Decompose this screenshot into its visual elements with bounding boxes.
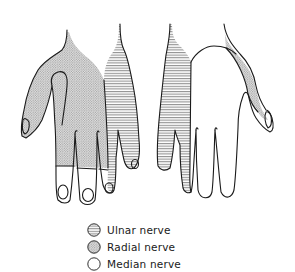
left-radial-region xyxy=(21,32,108,168)
left-nail-index xyxy=(58,185,68,199)
right-ulnar-region xyxy=(157,24,191,193)
right-finger-gap-2 xyxy=(215,128,217,130)
legend-label-radial: Radial nerve xyxy=(107,241,175,253)
legend: Ulnar nerve Radial nerve Median nerve xyxy=(87,221,181,272)
ulnar-swatch-icon xyxy=(87,223,101,237)
median-swatch-icon xyxy=(87,257,101,271)
right-radial-region xyxy=(224,24,268,120)
left-hand xyxy=(21,24,139,205)
left-nail-middle xyxy=(83,189,94,202)
right-hand xyxy=(157,24,273,198)
radial-swatch-icon xyxy=(87,240,101,254)
legend-item-ulnar: Ulnar nerve xyxy=(87,221,181,238)
legend-item-radial: Radial nerve xyxy=(87,238,181,255)
legend-label-median: Median nerve xyxy=(107,258,181,270)
legend-item-median: Median nerve xyxy=(87,255,181,272)
legend-label-ulnar: Ulnar nerve xyxy=(107,224,171,236)
right-finger-gap-1 xyxy=(196,128,198,130)
right-thumbnail xyxy=(265,112,271,128)
